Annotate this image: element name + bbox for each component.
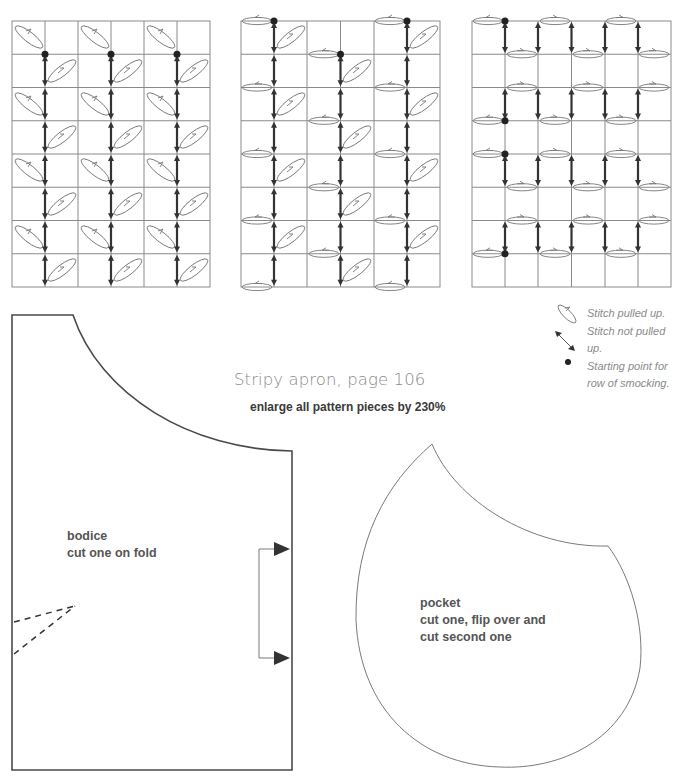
- legend-item-pulled-up: Stitch pulled up.: [587, 305, 670, 323]
- smocking-grid-3: [472, 15, 671, 287]
- bodice-name: bodice: [67, 528, 157, 545]
- pocket-instruction-2: cut second one: [420, 629, 546, 646]
- page-title: Stripy apron, page 106: [234, 370, 425, 389]
- legend-item-not-pulled-line2: up.: [587, 340, 670, 358]
- legend-item-not-pulled-line1: Stitch not pulled: [587, 323, 670, 341]
- fold-arrow-bottom-icon: [274, 651, 290, 665]
- dot-icon: [565, 359, 571, 365]
- fold-bracket: [259, 542, 290, 665]
- dart-lines: [14, 606, 75, 654]
- legend-icons: [555, 303, 578, 365]
- smocking-grid-1: [12, 21, 210, 287]
- bodice-label: bodice cut one on fold: [67, 528, 157, 562]
- pocket-instruction-1: cut one, flip over and: [420, 612, 546, 629]
- pattern-canvas: [0, 0, 683, 779]
- legend: Stitch pulled up. Stitch not pulled up. …: [587, 305, 670, 393]
- pocket-label: pocket cut one, flip over and cut second…: [420, 595, 546, 646]
- bodice-instruction: cut one on fold: [67, 545, 157, 562]
- double-arrow-icon: [555, 331, 575, 351]
- double-arrow-icons: [42, 55, 180, 286]
- smocking-grid-2: [241, 15, 440, 291]
- page-subtitle: enlarge all pattern pieces by 230%: [250, 400, 445, 414]
- fold-arrow-top-icon: [274, 542, 290, 556]
- pocket-name: pocket: [420, 595, 546, 612]
- legend-item-start-line2: row of smocking.: [587, 375, 670, 393]
- legend-item-start-line1: Starting point for: [587, 358, 670, 376]
- stitch-pulled-up-oval-icon: [556, 303, 579, 326]
